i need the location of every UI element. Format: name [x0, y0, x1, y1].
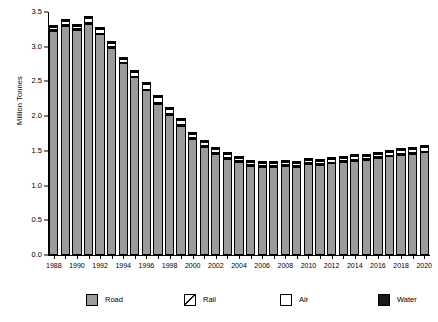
bar-segment-air — [373, 154, 382, 157]
bar-segment-road — [188, 139, 197, 255]
bar-segment-air — [408, 149, 417, 153]
bar-segment-water — [396, 148, 405, 150]
legend-item-road[interactable]: Road — [86, 292, 123, 308]
bar-segment-road — [153, 104, 162, 255]
bar-2018 — [396, 149, 405, 255]
x-tick-mark — [204, 255, 205, 259]
bar-segment-water — [373, 152, 382, 154]
bar-2015 — [362, 155, 371, 255]
x-tick-mark — [332, 255, 333, 259]
bar-segment-road — [176, 126, 185, 255]
x-tick-mark — [251, 255, 252, 259]
legend-item-water[interactable]: Water — [378, 292, 417, 308]
x-tick-label: 2016 — [370, 262, 386, 269]
bar-2013 — [339, 157, 348, 255]
bar-segment-air — [339, 158, 348, 161]
bar-2007 — [269, 162, 278, 255]
x-tick-label: 2002 — [208, 262, 224, 269]
x-tick-label: 2014 — [347, 262, 363, 269]
legend-swatch-road-icon — [86, 294, 98, 306]
bar-segment-air — [315, 161, 324, 164]
bar-segment-water — [61, 19, 70, 21]
bar-segment-water — [176, 118, 185, 120]
x-tick-mark — [297, 255, 298, 259]
bar-segment-air — [385, 152, 394, 155]
bar-segment-road — [234, 162, 243, 255]
bar-segment-water — [327, 157, 336, 159]
bar-segment-road — [72, 30, 81, 255]
legend-label: Road — [105, 296, 123, 304]
bar-2008 — [281, 161, 290, 255]
bar-2017 — [385, 152, 394, 255]
bar-segment-water — [188, 132, 197, 134]
bar-segment-air — [350, 156, 359, 159]
y-tick-mark — [44, 116, 48, 117]
x-tick-mark — [413, 255, 414, 259]
bar-1992 — [95, 29, 104, 255]
legend-label: Air — [299, 296, 308, 304]
y-tick-mark — [44, 46, 48, 47]
bar-segment-road — [246, 166, 255, 255]
bar-segment-road — [223, 159, 232, 256]
x-tick-mark — [100, 255, 101, 259]
bar-segment-road — [350, 161, 359, 255]
bar-segment-road — [315, 165, 324, 255]
legend-item-air[interactable]: Air — [280, 292, 308, 308]
bar-segment-road — [304, 164, 313, 255]
bar-segment-water — [107, 41, 116, 43]
bar-2003 — [223, 154, 232, 255]
bar-segment-air — [176, 120, 185, 126]
bar-2006 — [258, 162, 267, 255]
bar-2019 — [408, 148, 417, 255]
bar-segment-water — [385, 150, 394, 152]
bar-segment-water — [211, 147, 220, 149]
x-tick-mark — [181, 255, 182, 259]
bar-segment-road — [165, 115, 174, 255]
bar-1994 — [119, 58, 128, 255]
bar-1989 — [61, 20, 70, 255]
bar-segment-water — [234, 156, 243, 158]
bar-segment-water — [408, 147, 417, 149]
bar-segment-road — [211, 154, 220, 255]
bar-1997 — [153, 97, 162, 255]
bar-segment-water — [246, 160, 255, 162]
bar-1999 — [176, 119, 185, 255]
bar-2005 — [246, 161, 255, 255]
x-tick-mark — [227, 255, 228, 259]
plot-area: 0.00.51.01.52.02.53.03.5 198819901992199… — [48, 12, 430, 255]
x-tick-label: 2020 — [416, 262, 432, 269]
bar-segment-water — [130, 70, 139, 72]
bar-segment-water — [49, 25, 58, 27]
x-tick-label: 1992 — [92, 262, 108, 269]
x-tick-label: 1990 — [69, 262, 85, 269]
y-tick-label: 3.0 — [32, 43, 42, 51]
bar-segment-water — [315, 159, 324, 161]
bar-segment-road — [107, 48, 116, 255]
bar-segment-road — [130, 77, 139, 255]
bar-segment-water — [362, 154, 371, 156]
bar-segment-road — [327, 163, 336, 255]
bar-segment-air — [188, 134, 197, 139]
x-tick-mark — [112, 255, 113, 259]
bar-segment-road — [119, 63, 128, 255]
bar-segment-water — [223, 152, 232, 154]
x-tick-label: 1998 — [162, 262, 178, 269]
y-tick-label: 2.0 — [32, 112, 42, 120]
bar-segment-road — [339, 162, 348, 255]
legend-item-rail[interactable]: Rail — [184, 292, 216, 308]
bar-segment-air — [84, 18, 93, 23]
bar-segment-road — [61, 26, 70, 255]
bar-2004 — [234, 157, 243, 255]
y-axis-title: Million Tonnes — [15, 46, 24, 156]
bar-segment-air — [165, 109, 174, 115]
bar-segment-air — [119, 59, 128, 63]
bar-segment-water — [269, 161, 278, 163]
bar-segment-water — [420, 145, 429, 147]
bar-segment-road — [142, 90, 151, 255]
y-tick-label: 1.0 — [32, 182, 42, 190]
y-tick-label: 1.5 — [32, 147, 42, 155]
bar-2001 — [200, 141, 209, 255]
x-tick-label: 2004 — [231, 262, 247, 269]
bar-segment-road — [200, 147, 209, 255]
legend-swatch-rail-icon — [184, 294, 196, 306]
